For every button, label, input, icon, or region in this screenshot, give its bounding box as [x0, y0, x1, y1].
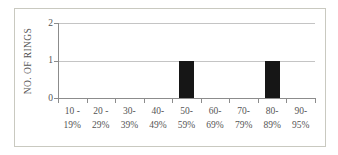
x-category-line2: 49%	[144, 119, 173, 133]
x-category-line2: 39%	[115, 119, 144, 133]
y-tick-mark-2	[54, 23, 58, 24]
x-category-label-6: 60-69%	[201, 105, 230, 132]
y-axis-line	[58, 23, 59, 98]
y-tick-label-0: 0	[35, 93, 53, 104]
x-category-line2: 29%	[87, 119, 116, 133]
x-tick-mark-6	[229, 99, 230, 103]
x-category-line1: 30-	[115, 105, 144, 119]
x-category-line1: 60-	[201, 105, 230, 119]
x-category-line1: 10 -	[58, 105, 87, 119]
plot-area: 01210 -19%20 -29%30-39%40-49%50-59%60-69…	[0, 0, 338, 155]
y-tick-label-2: 2	[35, 18, 53, 29]
x-tick-mark-1	[87, 99, 88, 103]
x-category-label-4: 40-49%	[144, 105, 173, 132]
x-category-line1: 50-	[172, 105, 201, 119]
x-tick-mark-5	[201, 99, 202, 103]
x-category-line1: 80-	[258, 105, 287, 119]
x-category-label-9: 90-95%	[286, 105, 315, 132]
x-tick-mark-0	[58, 99, 59, 103]
bar-50-59	[179, 61, 194, 99]
bar-80-89	[265, 61, 280, 99]
x-tick-mark-2	[115, 99, 116, 103]
x-category-line2: 95%	[286, 119, 315, 133]
x-category-label-1: 10 -19%	[58, 105, 87, 132]
x-category-line2: 19%	[58, 119, 87, 133]
y-tick-label-1: 1	[35, 55, 53, 66]
x-tick-mark-3	[144, 99, 145, 103]
x-category-line1: 20 -	[87, 105, 116, 119]
x-axis-line	[58, 98, 316, 99]
x-category-label-8: 80-89%	[258, 105, 287, 132]
x-category-line2: 79%	[229, 119, 258, 133]
x-category-label-7: 70-79%	[229, 105, 258, 132]
gridline-y2	[58, 23, 315, 24]
x-category-line1: 40-	[144, 105, 173, 119]
x-tick-mark-8	[286, 99, 287, 103]
x-category-label-3: 30-39%	[115, 105, 144, 132]
x-category-label-5: 50-59%	[172, 105, 201, 132]
x-category-label-2: 20 -29%	[87, 105, 116, 132]
x-category-line2: 69%	[201, 119, 230, 133]
x-tick-mark-7	[258, 99, 259, 103]
chart-canvas: NO. OF RINGS 01210 -19%20 -29%30-39%40-4…	[0, 0, 338, 155]
x-tick-mark-4	[172, 99, 173, 103]
x-tick-mark-9	[315, 99, 316, 103]
x-category-line1: 90-	[286, 105, 315, 119]
x-category-line2: 89%	[258, 119, 287, 133]
x-category-line2: 59%	[172, 119, 201, 133]
y-tick-mark-1	[54, 61, 58, 62]
x-category-line1: 70-	[229, 105, 258, 119]
